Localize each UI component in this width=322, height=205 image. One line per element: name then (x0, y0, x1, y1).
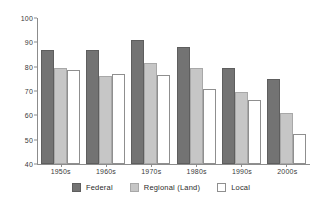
y-axis-tick-label: 60 (25, 112, 33, 119)
bar-regional[interactable] (144, 63, 157, 164)
plot-area: 405060708090100 (37, 18, 309, 164)
bar-group (131, 18, 170, 164)
bar-groups (38, 18, 309, 164)
bar-regional[interactable] (190, 68, 203, 164)
y-axis-tick-mark (34, 139, 37, 140)
y-axis-tick-mark (34, 164, 37, 165)
x-axis-tick-label: 1980s (187, 168, 207, 175)
legend-label: Regional (Land) (144, 183, 200, 192)
bar-local[interactable] (157, 75, 170, 164)
bar-group (177, 18, 216, 164)
legend-label: Federal (86, 183, 113, 192)
bar-regional[interactable] (235, 92, 248, 164)
x-axis-tick-label: 1970s (141, 168, 161, 175)
legend-label: Local (231, 183, 250, 192)
legend-swatch-local-icon (217, 183, 226, 192)
x-axis-tick-mark (106, 164, 107, 167)
legend-item-local[interactable]: Local (217, 183, 250, 192)
y-axis-tick-mark (34, 115, 37, 116)
y-axis-tick-label: 90 (25, 39, 33, 46)
x-axis-tick-label: 1990s (232, 168, 252, 175)
x-axis-tick-label: 1960s (96, 168, 116, 175)
x-axis-tick-mark (61, 164, 62, 167)
bar-chart-figure: 405060708090100 1950s1960s1970s1980s1990… (0, 0, 322, 205)
y-axis-tick-mark (34, 66, 37, 67)
bar-regional[interactable] (280, 113, 293, 164)
y-axis-tick-mark (34, 91, 37, 92)
x-axis-tick-label: 2000s (277, 168, 297, 175)
chart-legend: FederalRegional (Land)Local (0, 183, 322, 192)
bar-local[interactable] (203, 89, 216, 164)
bar-federal[interactable] (177, 47, 190, 164)
bar-group (86, 18, 125, 164)
x-axis-line (37, 164, 310, 165)
bar-regional[interactable] (99, 76, 112, 164)
bar-local[interactable] (67, 70, 80, 164)
x-axis-tick-mark (286, 164, 287, 167)
bar-federal[interactable] (41, 50, 54, 164)
bar-group (41, 18, 80, 164)
y-axis-tick-label: 80 (25, 63, 33, 70)
bar-group (267, 18, 306, 164)
x-axis-tick-mark (196, 164, 197, 167)
legend-swatch-regional-icon (130, 183, 139, 192)
bar-local[interactable] (112, 74, 125, 164)
bar-federal[interactable] (222, 68, 235, 164)
bar-regional[interactable] (54, 68, 67, 164)
bar-group (222, 18, 261, 164)
y-axis-tick-mark (34, 18, 37, 19)
y-axis-tick-label: 70 (25, 88, 33, 95)
legend-swatch-federal-icon (72, 183, 81, 192)
legend-item-federal[interactable]: Federal (72, 183, 113, 192)
bar-local[interactable] (248, 100, 261, 164)
y-axis-tick-label: 50 (25, 136, 33, 143)
x-axis-tick-mark (241, 164, 242, 167)
x-axis-tick-mark (151, 164, 152, 167)
bar-local[interactable] (293, 134, 306, 164)
bar-federal[interactable] (131, 40, 144, 164)
y-axis-tick-label: 40 (25, 161, 33, 168)
y-axis-tick-mark (34, 42, 37, 43)
y-axis-tick-label: 100 (21, 15, 33, 22)
x-axis-labels: 1950s1960s1970s1980s1990s2000s (38, 168, 310, 175)
bar-federal[interactable] (86, 50, 99, 164)
x-axis-tick-label: 1950s (51, 168, 71, 175)
legend-item-regional[interactable]: Regional (Land) (130, 183, 200, 192)
bar-federal[interactable] (267, 79, 280, 164)
